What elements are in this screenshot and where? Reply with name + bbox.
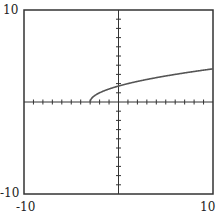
x-min-label: -10: [16, 200, 35, 214]
x-max-label: 10: [200, 200, 215, 214]
function-curve: [90, 69, 213, 102]
chart-plot: [0, 0, 220, 220]
y-max-label: 10: [3, 3, 18, 17]
y-min-label: -10: [0, 186, 19, 200]
